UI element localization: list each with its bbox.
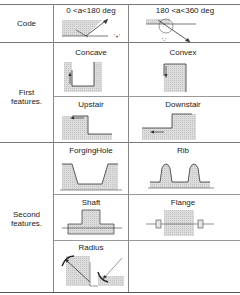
cell-title-flange: Flange <box>146 198 220 207</box>
row-divider-second-inner-1 <box>53 194 240 195</box>
flange-diagram <box>142 208 222 240</box>
row-label-first-line1: First <box>0 88 53 97</box>
row-label-second: Second features. <box>0 210 53 228</box>
row-label-second-line2: features. <box>0 219 53 228</box>
convex-diagram <box>160 60 210 94</box>
positive-angle-diagram: '+' <box>56 16 128 42</box>
row-divider-first-inner <box>53 96 240 97</box>
shaft-diagram <box>60 208 126 240</box>
table-top-border <box>0 4 240 5</box>
cell-title-radius: Radius <box>54 243 128 252</box>
concave-diagram <box>60 60 120 94</box>
row-divider-second-inner-2 <box>53 240 240 241</box>
code-positive-title: 0 <a<180 deg <box>54 6 128 15</box>
downstair-diagram <box>140 112 204 142</box>
cell-title-convex: Convex <box>146 48 220 57</box>
row-divider-code <box>0 42 240 43</box>
cell-title-downstair: Downstair <box>146 100 220 109</box>
negative-angle-diagram: '-' <box>140 16 230 42</box>
cell-title-concave: Concave <box>54 48 128 57</box>
row-label-first-line2: features. <box>0 97 53 106</box>
rib-diagram <box>148 160 228 192</box>
row-label-second-line1: Second <box>0 210 53 219</box>
negative-sign: '-' <box>162 37 166 43</box>
row-divider-first <box>0 142 240 143</box>
radius-diagram <box>60 252 128 292</box>
forginghole-diagram <box>60 160 126 192</box>
code-negative-title: 180 <a<360 deg <box>140 6 230 15</box>
upstair-diagram <box>60 112 124 142</box>
column-divider-middle <box>128 4 129 292</box>
table-bottom-border <box>0 292 240 293</box>
cell-title-rib: Rib <box>146 146 220 155</box>
row-label-first: First features. <box>0 88 53 106</box>
cell-title-forginghole: ForgingHole <box>54 146 128 155</box>
cell-title-upstair: Upstair <box>54 100 128 109</box>
positive-sign: '+' <box>114 33 120 39</box>
cell-title-shaft: Shaft <box>54 198 128 207</box>
row-label-code: Code <box>0 19 53 28</box>
